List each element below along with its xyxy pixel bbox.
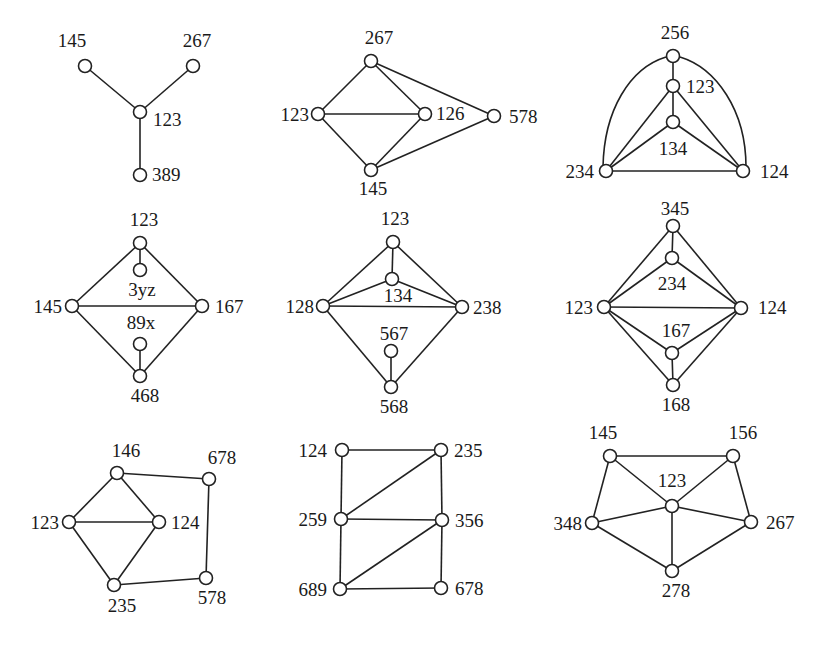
node-label: 345 [661,198,690,219]
edge-267-278 [672,522,751,571]
node-label: 89x [127,312,156,333]
node-label: 123 [130,209,159,230]
node-label: 134 [384,285,413,306]
graph-g6: 345234123124167168 [565,198,788,415]
edge-145-578 [371,116,494,170]
node-label: 278 [662,580,691,601]
edge-267-123 [318,61,371,114]
edge-578-235 [114,578,206,585]
node-label: 689 [299,579,328,600]
node-label: 3yz [128,279,155,300]
node-label: 238 [473,297,502,318]
edge-235-356 [441,450,442,520]
node-145 [365,164,378,177]
node-label: 267 [365,27,394,48]
edge-134-128 [323,279,392,306]
node-167 [666,347,679,360]
graph-figure: 1452671233892671231265781452561231342341… [0,0,821,646]
node-label: 123 [658,470,687,491]
node-label: 348 [554,513,583,534]
edge-156-267 [733,456,751,522]
node-124 [336,444,349,457]
edge-678-578 [206,479,209,578]
node-256 [667,50,680,63]
node-label: 356 [455,510,484,531]
edge-145-348 [592,456,610,523]
node-146 [111,467,124,480]
node-label: 235 [108,595,137,616]
edge-123-145 [318,114,371,170]
node-145 [79,60,92,73]
node-123 [666,500,679,513]
edge-689-678 [340,588,441,589]
graph-g3: 256123134234124 [566,22,790,182]
node-678 [435,582,448,595]
node-134 [386,273,399,286]
edge-123-124 [604,307,741,308]
node-label: 578 [198,587,227,608]
node-123 [387,236,400,249]
node-label: 168 [662,394,691,415]
edge-145-123 [85,66,140,112]
edge-124-259 [341,450,342,519]
node-label: 145 [58,30,87,51]
graph-g1: 145267123389 [58,30,212,185]
node-235 [108,579,121,592]
edge-124-235 [114,522,159,585]
node-label: 134 [659,138,688,159]
node-label: 145 [359,178,388,199]
node-689 [334,583,347,596]
node-label: 167 [215,296,244,317]
node-389 [134,169,147,182]
node-label: 567 [380,323,409,344]
node-348 [586,517,599,530]
node-label: 389 [152,164,181,185]
node-126 [419,108,432,121]
edge-259-356 [341,519,442,520]
node-label: 156 [729,422,758,443]
edge-348-278 [592,523,672,571]
node-156 [727,450,740,463]
node-label: 234 [658,273,687,294]
node-label: 145 [34,296,63,317]
node-label: 234 [566,161,595,182]
node-label: 235 [454,440,483,461]
node-123 [598,301,611,314]
node-3yz [134,264,147,277]
node-123 [312,108,325,121]
graph-g4: 1233yz14516789x468 [34,209,244,406]
edge-259-689 [340,519,341,589]
edge-238-568 [391,307,462,387]
node-578 [488,110,501,123]
node-568 [385,381,398,394]
node-label: 123 [686,76,715,97]
node-123 [134,106,147,119]
edge-345-123 [604,226,673,307]
node-238 [456,301,469,314]
node-267 [745,516,758,529]
node-label: 126 [436,103,465,124]
edge-267-126 [371,61,425,114]
node-134 [667,116,680,129]
node-123 [134,237,147,250]
node-label: 256 [661,22,690,43]
graph-g5: 123134128238567568 [286,208,502,417]
node-145 [604,450,617,463]
graph-g7: 146678123124578235 [31,440,237,616]
edge-123-235 [69,522,114,585]
edges [340,450,442,589]
node-label: 145 [589,422,618,443]
edge-128-568 [323,306,391,387]
edge-267-123 [140,66,193,112]
node-label: 146 [112,440,141,461]
node-123 [667,80,680,93]
node-124 [737,165,750,178]
node-89x [134,338,147,351]
node-label: 678 [208,447,237,468]
node-567 [385,345,398,358]
graph-g9: 145156123348267278 [554,422,795,601]
node-468 [134,370,147,383]
node-label: 167 [662,320,691,341]
node-168 [667,379,680,392]
edge-267-578 [371,61,494,116]
